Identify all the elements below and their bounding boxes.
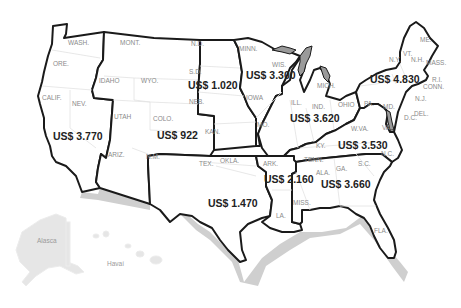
label-utah: UTAH bbox=[114, 113, 132, 120]
label-hawaii: Havaí bbox=[107, 260, 124, 267]
price-great-lakes: US$ 3.620 bbox=[290, 112, 340, 124]
alaska-shape bbox=[16, 214, 84, 286]
label-ri: R.I. bbox=[432, 76, 442, 83]
price-plains: US$ 1.020 bbox=[188, 79, 238, 91]
label-minn: MINN. bbox=[239, 45, 258, 52]
label-wva: W.VA. bbox=[351, 125, 369, 132]
label-wis: WIS. bbox=[272, 61, 286, 68]
label-tex: TEX. bbox=[199, 160, 214, 167]
label-nev: NEV. bbox=[72, 100, 87, 107]
label-fla: FLA. bbox=[374, 227, 388, 234]
us-regions-map: WASH. ORE. CALIF. NEV. MONT. IDAHO WYO. … bbox=[0, 0, 461, 308]
label-la: LA. bbox=[276, 212, 286, 219]
label-alaska: Alasca bbox=[37, 237, 57, 244]
label-mo: MO. bbox=[257, 121, 269, 128]
label-ny: N.Y. bbox=[389, 56, 401, 63]
label-mich: MICH. bbox=[317, 82, 336, 89]
label-mont: MONT. bbox=[120, 39, 140, 46]
hawaii-shape bbox=[93, 231, 162, 264]
price-south-central: US$ 1.470 bbox=[208, 197, 258, 209]
label-nj: N.J. bbox=[415, 95, 427, 102]
label-ark: ARK. bbox=[263, 160, 278, 167]
label-ga: GA. bbox=[336, 165, 347, 172]
label-nc: N.C. bbox=[381, 150, 394, 157]
price-mountain: US$ 922 bbox=[157, 129, 198, 141]
label-ind: IND. bbox=[312, 103, 325, 110]
label-tenn: TENN. bbox=[304, 156, 324, 163]
label-ore: ORE. bbox=[53, 60, 69, 67]
price-west: US$ 3.770 bbox=[53, 130, 103, 142]
label-neb: NEB. bbox=[189, 98, 204, 105]
price-northeast: US$ 4.830 bbox=[370, 73, 420, 85]
price-delta: US$ 2.160 bbox=[264, 173, 314, 185]
label-me: ME. bbox=[420, 36, 432, 43]
label-conn: CONN. bbox=[423, 83, 444, 90]
label-pa: PA. bbox=[364, 100, 374, 107]
label-okla: OKLA. bbox=[220, 157, 239, 164]
label-nm: N.M. bbox=[146, 153, 160, 160]
label-nh: N.H. bbox=[411, 56, 424, 63]
label-va: VA. bbox=[382, 124, 392, 131]
price-southeast: US$ 3.660 bbox=[321, 178, 371, 190]
price-mid-atlantic-south: US$ 3.530 bbox=[338, 139, 388, 151]
label-wash: WASH. bbox=[68, 39, 89, 46]
label-ariz: ARIZ. bbox=[108, 151, 125, 158]
label-idaho: IDAHO bbox=[99, 77, 120, 84]
label-ala: ALA. bbox=[316, 169, 330, 176]
label-calif: CALIF. bbox=[42, 94, 62, 101]
label-kan: KAN. bbox=[205, 128, 220, 135]
label-sd: S.D. bbox=[189, 68, 202, 75]
label-mass: MASS. bbox=[426, 59, 446, 66]
label-colo: COLO. bbox=[153, 115, 173, 122]
label-nd: N.D. bbox=[191, 40, 204, 47]
label-dc: D.C. bbox=[404, 114, 417, 121]
label-iowa: IOWA bbox=[246, 94, 264, 101]
price-upper-midwest: US$ 3.300 bbox=[246, 69, 296, 81]
label-ky: KY. bbox=[316, 142, 326, 149]
label-md: MD. bbox=[383, 103, 395, 110]
label-miss: MISS. bbox=[293, 199, 311, 206]
label-ill: ILL. bbox=[291, 99, 302, 106]
label-sc: S.C. bbox=[358, 160, 371, 167]
label-wyo: WYO. bbox=[141, 77, 159, 84]
label-ohio: OHIO bbox=[338, 101, 355, 108]
